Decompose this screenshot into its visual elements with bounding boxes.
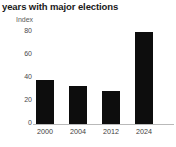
x-tick-label: 2000 — [28, 127, 62, 136]
bar-chart: years with major elections Index 80 60 4… — [0, 0, 176, 147]
plot-area — [34, 26, 174, 124]
bar-2000 — [36, 80, 54, 124]
x-tick-label: 2004 — [61, 127, 95, 136]
x-tick-label: 2012 — [94, 127, 128, 136]
x-axis-ticks: 2000 2004 2012 2024 — [34, 127, 174, 141]
y-tick-label: 80 — [10, 27, 32, 35]
bar-2004 — [69, 86, 87, 124]
y-tick-label: 60 — [10, 50, 32, 58]
y-axis-ticks: 80 60 40 20 0 — [10, 0, 32, 147]
bar-2012 — [102, 91, 120, 124]
y-tick-label: 20 — [10, 96, 32, 104]
bar-2024 — [135, 32, 153, 124]
x-axis-line — [33, 124, 174, 125]
y-tick-label: 40 — [10, 73, 32, 81]
x-tick-label: 2024 — [127, 127, 161, 136]
y-tick-label: 0 — [10, 119, 32, 127]
